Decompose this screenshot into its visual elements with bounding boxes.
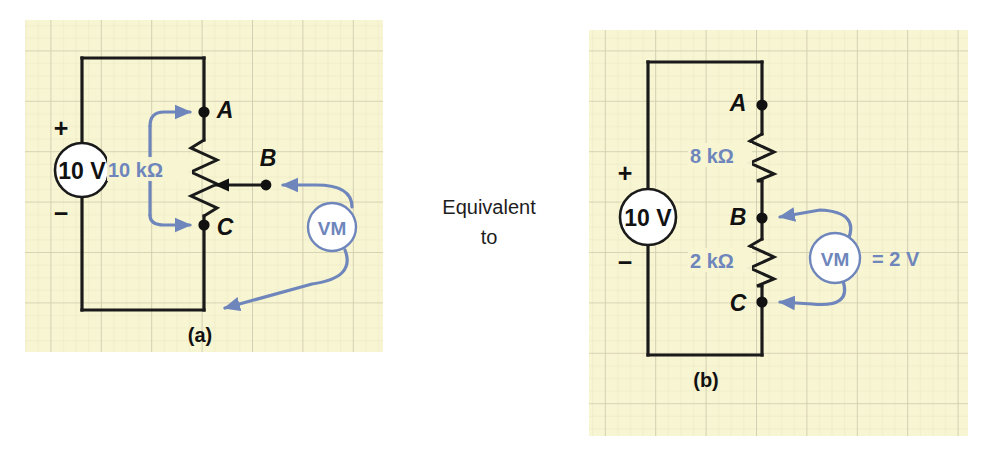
equivalent-to-line-1: Equivalent (442, 196, 536, 218)
panel-a-node-b-dot (261, 180, 272, 191)
equivalent-to-line-2: to (481, 226, 498, 248)
panel-b-resistor-top-label: 8 kΩ (690, 145, 734, 167)
panel-b-source-label: 10 V (624, 205, 672, 231)
panel-b-node-a-dot (756, 99, 767, 110)
panel-b-vm-label: VM (821, 249, 850, 270)
panel-b-node-b-dot (756, 212, 767, 223)
panel-b-node-c-dot (756, 296, 767, 307)
panel-a-node-b-label: B (260, 145, 277, 171)
panel-b-source-minus: − (618, 248, 633, 276)
panel-b-node-a-label: A (729, 90, 747, 116)
circuit-figure: 10 V + − A B C 10 kΩ (0, 0, 998, 456)
panel-a-source-minus: − (54, 199, 69, 227)
panel-a-node-a-dot (198, 106, 209, 117)
panel-a: 10 V + − A B C 10 kΩ (25, 20, 383, 352)
panel-b-node-b-label: B (730, 204, 747, 230)
panel-b-resistor-bottom-label: 2 kΩ (690, 250, 734, 272)
panel-a-node-a-label: A (216, 97, 234, 123)
panel-a-resistance-label: 10 kΩ (108, 159, 163, 181)
panel-b-node-c-label: C (730, 290, 747, 316)
panel-a-caption: (a) (188, 324, 212, 346)
panel-a-node-c-label: C (217, 214, 234, 240)
panel-b-caption: (b) (693, 369, 719, 391)
circuit-figure-canvas: 10 V + − A B C 10 kΩ (0, 0, 998, 456)
panel-a-vm-label: VM (318, 218, 347, 239)
panel-b: 10 V + − 8 kΩ 2 kΩ A B C (589, 30, 968, 436)
panel-a-node-c-dot (198, 219, 209, 230)
panel-a-source-label: 10 V (58, 158, 106, 184)
panel-b-vm-reading: = 2 V (872, 248, 920, 270)
panel-a-source-plus: + (54, 114, 69, 142)
panel-b-source-plus: + (618, 159, 633, 187)
